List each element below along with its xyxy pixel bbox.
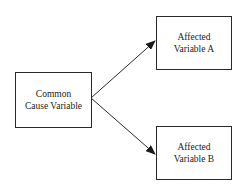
node-label-line2: Cause Variable	[25, 100, 82, 112]
node-label-line1: Common	[36, 88, 71, 100]
node-affected-variable-a: Affected Variable A	[156, 16, 232, 70]
arrow-cause-to-b	[91, 98, 155, 154]
arrow-cause-to-a	[91, 41, 155, 98]
node-label-line2: Variable B	[174, 153, 214, 165]
node-common-cause-variable: Common Cause Variable	[15, 72, 92, 128]
node-label-line2: Variable A	[174, 43, 214, 55]
node-label-line1: Affected	[177, 141, 210, 153]
node-affected-variable-b: Affected Variable B	[156, 126, 232, 180]
node-label-line1: Affected	[177, 31, 210, 43]
